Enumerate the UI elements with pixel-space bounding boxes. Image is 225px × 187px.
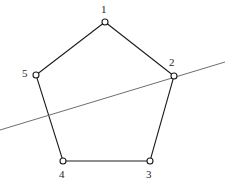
pentagon-outline — [36, 22, 174, 161]
vertex-label-4: 4 — [59, 169, 65, 180]
geometry-figure: 12345 — [0, 0, 225, 187]
vertex-marker-4 — [60, 158, 66, 164]
secant-line — [0, 62, 225, 130]
vertex-marker-5 — [33, 72, 39, 78]
vertex-label-1: 1 — [101, 4, 107, 15]
diagram-canvas — [0, 0, 225, 187]
vertex-marker-2 — [171, 73, 177, 79]
vertex-label-2: 2 — [169, 57, 175, 68]
vertex-marker-3 — [147, 158, 153, 164]
vertex-label-3: 3 — [146, 169, 152, 180]
vertex-marker-1 — [102, 19, 108, 25]
vertex-label-5: 5 — [22, 68, 28, 79]
